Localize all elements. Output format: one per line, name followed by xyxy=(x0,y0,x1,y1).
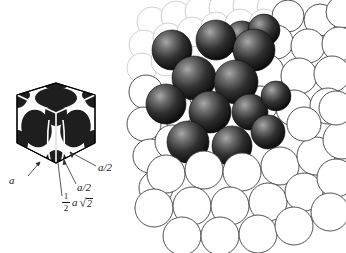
crystal-structure-figure: a a/2 a/2 1 2 a √ 2 xyxy=(0,0,346,253)
variable-a: a xyxy=(72,197,78,208)
label-half-a-top: a/2 xyxy=(98,162,112,173)
radical-argument: 2 xyxy=(86,198,93,209)
dark-spheres-cluster xyxy=(146,20,291,166)
radical-sign: √ xyxy=(80,197,87,209)
label-half-face-diagonal: 1 2 a √ 2 xyxy=(62,192,93,213)
label-edge-a: a xyxy=(9,175,15,186)
fraction-denominator: 2 xyxy=(63,204,70,213)
close-packed-aggregate-panel xyxy=(136,0,346,253)
radical-expression: √ 2 xyxy=(80,197,94,209)
fraction-one-half: 1 2 xyxy=(62,192,70,213)
sphere-aggregate-svg xyxy=(136,0,346,253)
fraction-numerator: 1 xyxy=(63,192,70,201)
